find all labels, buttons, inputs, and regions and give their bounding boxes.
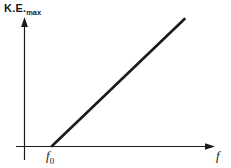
y-axis-arrowhead [21,17,28,27]
threshold-frequency-label: f0 [46,149,54,166]
x-axis-label: f [216,149,220,162]
kemax-data-line [52,19,185,146]
photoelectric-kemax-vs-frequency-figure: K.E.max f0 f [0,0,231,168]
y-axis-label: K.E.max [4,3,41,17]
plot-canvas [0,0,231,168]
threshold-label-subscript: 0 [50,156,55,166]
y-axis-label-subscript: max [26,8,41,17]
y-axis-label-main: K.E. [4,2,26,14]
x-axis-arrowhead [205,143,215,150]
